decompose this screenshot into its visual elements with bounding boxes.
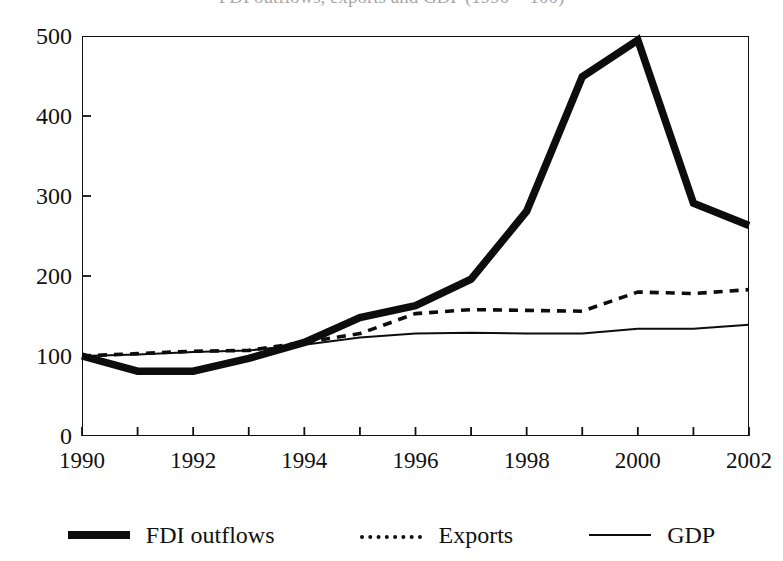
y-axis-tick-label: 200 [6,264,72,288]
chart-figure: FDI outflows, exports and GDP (1990 = 10… [0,0,783,561]
legend-label-exports: Exports [438,523,513,547]
plot-area [82,36,749,436]
y-axis-tick-label: 500 [6,24,72,48]
series-line-fdi-outflows [82,40,749,371]
thin-solid-line-icon [589,526,651,544]
chart-title: FDI outflows, exports and GDP (1990 = 10… [0,0,783,8]
series-line-exports [82,290,749,356]
legend-item-gdp: GDP [589,523,715,547]
legend-label-fdi-outflows: FDI outflows [146,523,275,547]
x-axis-tick-label: 1998 [482,449,572,472]
x-axis-tick-labels: 1990199219941996199820002002 [0,449,783,479]
legend-item-exports: Exports [360,523,513,547]
x-axis-tick-label: 1996 [371,449,461,472]
chart-legend: FDI outflows Exports GDP [0,515,783,555]
thick-solid-line-icon [68,526,130,544]
dashed-line-icon [360,526,422,544]
plot-lines [82,36,749,436]
y-axis-tick-label: 0 [6,424,72,448]
x-axis-tick-label: 2000 [593,449,683,472]
y-axis-tick-label: 100 [6,344,72,368]
y-axis-tick-label: 400 [6,104,72,128]
y-axis-tick-label: 300 [6,184,72,208]
x-axis-tick-label: 1994 [259,449,349,472]
legend-item-fdi-outflows: FDI outflows [68,523,275,547]
x-axis-tick-label: 1992 [148,449,238,472]
legend-label-gdp: GDP [667,523,715,547]
x-axis-tick-label: 1990 [37,449,127,472]
x-axis-tick-label: 2002 [704,449,783,472]
